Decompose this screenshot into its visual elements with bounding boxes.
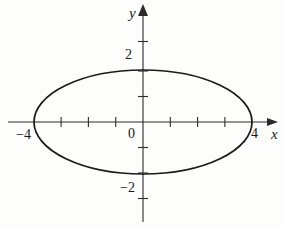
x-axis-arrowhead [267,118,278,126]
origin-label: 0 [128,127,135,141]
y-axis-label: y [129,6,136,21]
x-tick-label-minus4: −4 [16,128,31,142]
y-tick-label-2: 2 [125,48,132,62]
x-axis-label: x [271,127,278,142]
y-tick-label-minus2: −2 [120,181,135,195]
x-tick-label-4: 4 [251,127,258,141]
graph-figure: y x 0 2 −2 −4 4 [0,0,282,227]
y-axis-arrowhead [138,4,148,16]
coordinate-plane [0,0,282,227]
